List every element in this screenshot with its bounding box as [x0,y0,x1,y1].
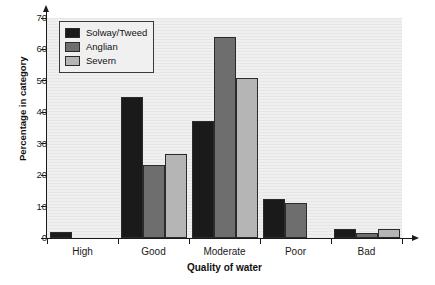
y-axis-title: Percentage in category [18,34,28,184]
x-category-label-moderate: Moderate [185,247,265,257]
legend-label: Solway/Tweed [86,28,147,38]
chart-legend: Solway/TweedAnglianSevern [59,21,154,73]
x-tick [118,239,119,244]
x-axis-title: Quality of water [47,263,402,273]
legend-item: Anglian [65,40,147,54]
x-category-label-poor: Poor [256,247,336,257]
x-tick [331,239,332,244]
legend-label: Severn [86,56,116,66]
legend-label: Anglian [86,42,118,52]
x-tick [189,239,190,244]
bar-chart: 010203040506070 HighGoodModeratePoorBad … [0,0,435,285]
legend-swatch-icon [65,42,80,52]
legend-swatch-icon [65,28,80,38]
x-tick [47,239,48,244]
legend-swatch-icon [65,56,80,66]
legend-item: Severn [65,54,147,68]
x-category-label-high: High [43,247,123,257]
x-category-label-bad: Bad [327,247,407,257]
x-category-label-good: Good [114,247,194,257]
legend-item: Solway/Tweed [65,26,147,40]
x-tick [402,239,403,244]
x-tick [260,239,261,244]
